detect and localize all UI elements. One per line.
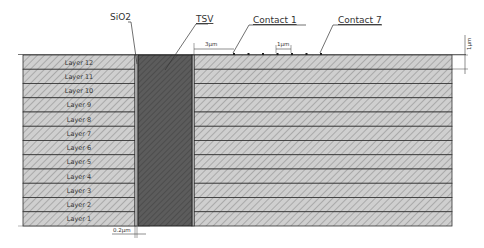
layer-right	[194, 55, 452, 69]
sio2-liner-left	[135, 55, 137, 226]
contact-1	[233, 53, 235, 55]
layer-label: Layer 3	[67, 187, 91, 195]
contact-2	[248, 53, 250, 55]
contact-3	[262, 53, 264, 55]
layer-right	[194, 155, 452, 169]
contact7-label: Contact 7	[338, 15, 382, 25]
layer-label: Layer 4	[67, 173, 91, 181]
contact1-leader	[233, 25, 306, 53]
dim-3um-label: 3µm	[205, 41, 217, 48]
tsv-label: TSV	[195, 14, 214, 24]
tsv-cross-section-diagram: Layer 12Layer 11Layer 10Layer 9Layer 8La…	[0, 0, 484, 248]
layer-right	[194, 84, 452, 98]
layer-stack-left: Layer 12Layer 11Layer 10Layer 9Layer 8La…	[23, 55, 135, 226]
layer-right	[194, 212, 452, 226]
layer-label: Layer 9	[67, 101, 91, 109]
dim-sio2-label: 0.2µm	[113, 227, 131, 234]
layer-right	[194, 112, 452, 126]
layer-right	[194, 169, 452, 183]
layer-right	[194, 69, 452, 83]
layer-label: Layer 1	[67, 215, 91, 223]
layer-right	[194, 183, 452, 197]
contact-4	[277, 53, 279, 55]
contact-6	[306, 53, 308, 55]
layer-right	[194, 198, 452, 212]
layer-label: Layer 12	[65, 59, 93, 67]
dim-layer-label: 1µm	[466, 38, 473, 50]
contact7-leader	[320, 25, 382, 53]
layer-right	[194, 141, 452, 155]
layer-right	[194, 98, 452, 112]
contact-5	[291, 53, 293, 55]
tsv-body	[138, 55, 192, 226]
layer-label: Layer 11	[65, 73, 93, 81]
layer-label: Layer 10	[65, 87, 93, 95]
layer-stack-right	[194, 55, 452, 226]
layer-label: Layer 7	[67, 130, 91, 138]
layer-right	[194, 126, 452, 140]
layer-label: Layer 6	[67, 144, 91, 152]
layer-label: Layer 8	[67, 116, 91, 124]
layer-label: Layer 5	[67, 158, 91, 166]
dim-pitch-label: 1µm	[277, 41, 289, 48]
contact1-label: Contact 1	[253, 15, 297, 25]
sio2-label: SiO2	[110, 12, 131, 22]
contact-7	[320, 53, 322, 55]
layer-label: Layer 2	[67, 201, 91, 209]
